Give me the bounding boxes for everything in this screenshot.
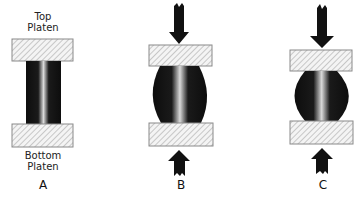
bottom-platen-label: Bottom Platen <box>16 150 70 172</box>
panel-b <box>149 3 213 176</box>
panel-label-b: B <box>172 178 190 192</box>
specimen-c <box>295 71 349 121</box>
up-arrow-icon <box>311 148 333 174</box>
bottom-platen-label-line1: Bottom <box>16 150 70 161</box>
down-arrow-icon <box>310 4 334 48</box>
down-arrow-icon <box>169 3 189 44</box>
top-platen-label: Top Platen <box>22 11 64 33</box>
panel-label-a: A <box>34 178 52 192</box>
bottom-platen-c <box>290 121 353 144</box>
top-platen-b <box>149 45 212 66</box>
top-platen-label-line1: Top <box>22 11 64 22</box>
up-arrow-icon <box>168 150 190 176</box>
bottom-platen-b <box>149 123 213 146</box>
bottom-platen-a <box>12 124 73 147</box>
specimen-b <box>153 66 207 123</box>
panel-label-c: C <box>314 178 332 192</box>
panel-c <box>290 4 353 174</box>
top-platen-label-line2: Platen <box>22 22 64 33</box>
specimen-a <box>26 61 61 124</box>
bottom-platen-label-line2: Platen <box>16 161 70 172</box>
panel-a <box>12 39 73 147</box>
top-platen-a <box>12 39 73 61</box>
top-platen-c <box>290 50 352 71</box>
